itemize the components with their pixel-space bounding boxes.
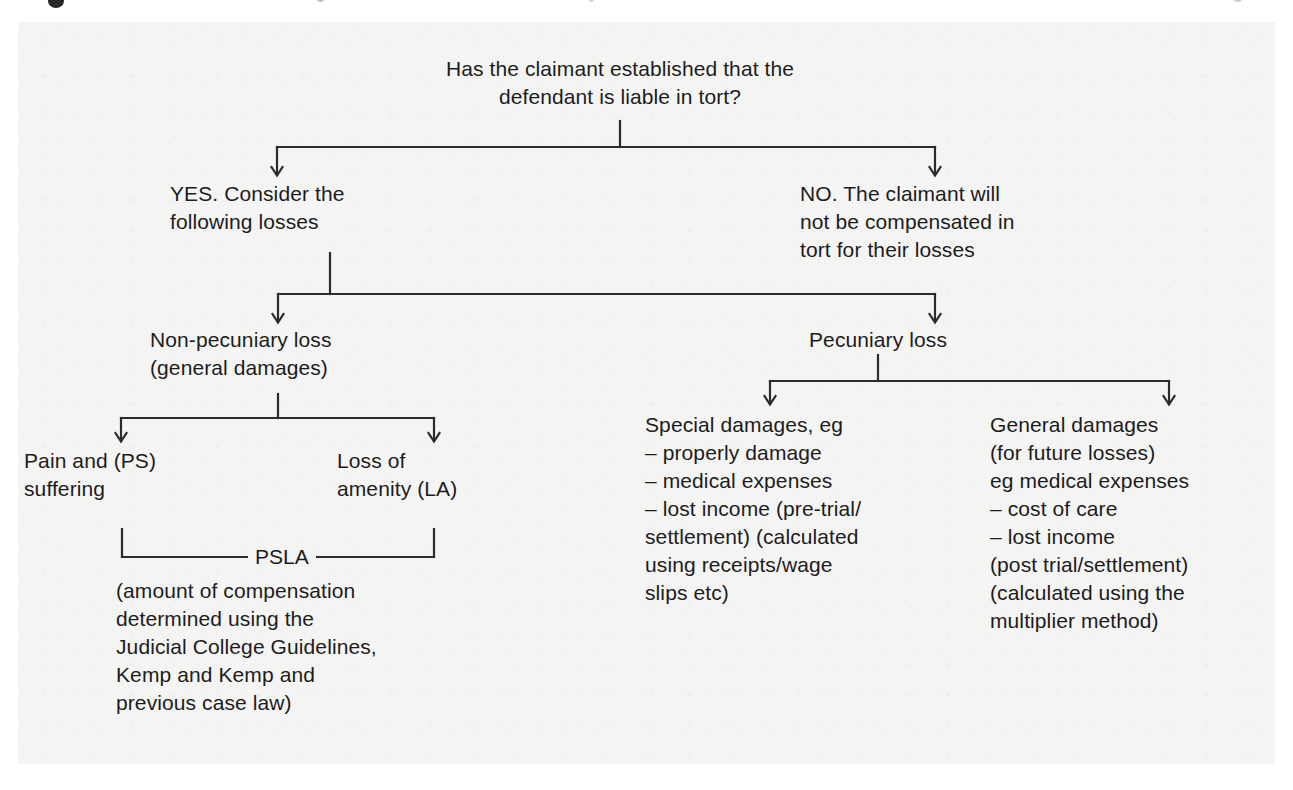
node-special-damages: Special damages, eg – properly damage – … <box>645 411 975 607</box>
flowchart-page: Has the claimant established that the de… <box>0 0 1293 790</box>
node-psla-label: PSLA <box>248 543 316 571</box>
node-non-pecuniary-loss: Non-pecuniary loss (general damages) <box>150 326 450 382</box>
node-yes-consider-losses: YES. Consider the following losses <box>170 180 450 236</box>
node-no-not-compensated: NO. The claimant will not be compensated… <box>800 180 1100 264</box>
scan-crop-artifact <box>0 0 1293 14</box>
node-loss-of-amenity: Loss of amenity (LA) <box>337 447 547 503</box>
node-pecuniary-loss: Pecuniary loss <box>758 326 998 354</box>
node-psla-note: (amount of compensation determined using… <box>116 577 476 717</box>
node-root-question: Has the claimant established that the de… <box>400 55 840 111</box>
node-general-damages: General damages (for future losses) eg m… <box>990 411 1290 635</box>
node-pain-and-suffering: Pain and (PS) suffering <box>24 447 244 503</box>
